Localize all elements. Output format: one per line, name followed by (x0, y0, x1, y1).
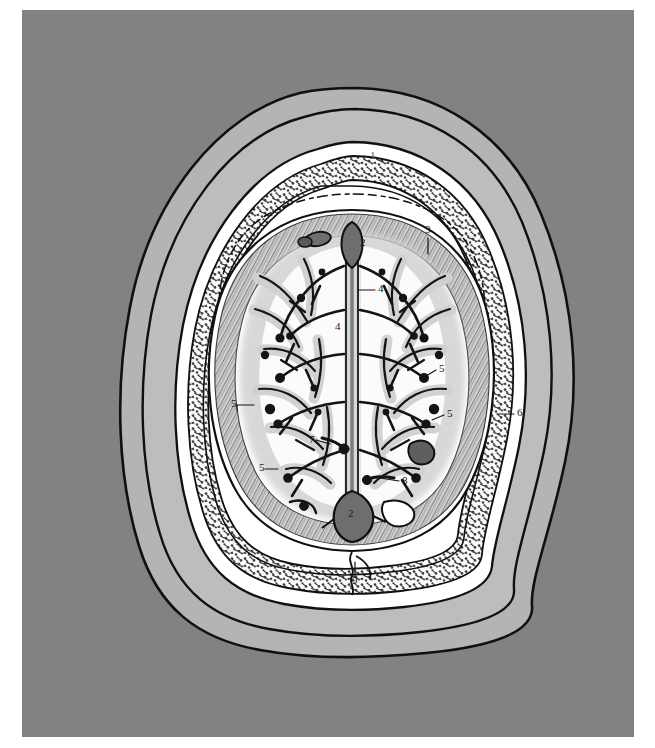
label-5c: 5 (447, 408, 453, 419)
label-5a: 5 (439, 363, 445, 374)
label-7: 7 (309, 434, 315, 445)
label-2b: 2 (348, 508, 354, 519)
label-1: 1 (370, 150, 376, 161)
falx-cerebri (346, 228, 358, 530)
label-6: 6 (517, 407, 523, 418)
label-9: 9 (352, 575, 358, 586)
label-2a: 2 (360, 237, 366, 248)
label-3: 3 (425, 224, 431, 235)
figure-page: 1 2 3 4 4 5 5 5 5 6 7 8 2 9 (0, 0, 655, 748)
label-4b: 4 (335, 321, 341, 332)
label-5d: 5 (259, 462, 265, 473)
illustration-plate: 1 2 3 4 4 5 5 5 5 6 7 8 2 9 (22, 10, 634, 737)
label-5b: 5 (231, 398, 237, 409)
label-4a: 4 (378, 283, 384, 294)
label-8: 8 (402, 475, 408, 486)
head-cross-section-figure (22, 10, 634, 737)
